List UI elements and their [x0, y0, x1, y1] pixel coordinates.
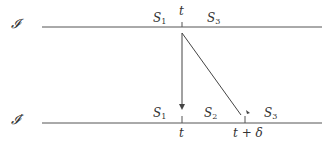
- prime-mark: ′: [20, 112, 23, 127]
- bottom-label-t-plus-delta: t + δ: [233, 127, 263, 139]
- frame-label-I-prime: 𝓘′: [11, 114, 23, 126]
- top-label-s3: S3: [207, 12, 220, 28]
- bottom-label-s1: S1: [153, 107, 166, 123]
- top-label-t: t: [179, 5, 184, 17]
- top-label-s1: S1: [153, 12, 166, 28]
- small-arrowhead-icon: [246, 110, 250, 114]
- timeline-diagram: [0, 0, 333, 144]
- frame-label-I: 𝓘: [11, 18, 20, 30]
- diagonal-signal-line: [182, 33, 241, 115]
- bottom-label-s3: S3: [264, 107, 277, 123]
- frame-I-prime-text: 𝓘: [11, 112, 20, 127]
- bottom-label-s2: S2: [204, 107, 217, 123]
- frame-I-text: 𝓘: [11, 16, 20, 31]
- bottom-label-t: t: [179, 127, 184, 139]
